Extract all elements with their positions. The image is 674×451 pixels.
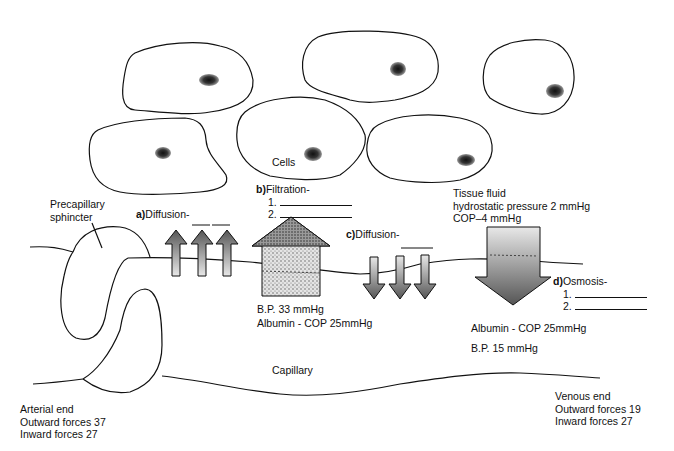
capillary-exchange-diagram — [0, 0, 674, 451]
venous-end-title: Venous end — [555, 390, 641, 403]
venous-pressures-label: Albumin - COP 25mmHg B.P. 15 mmHg — [471, 318, 586, 358]
diffusion-c-marker: c) — [346, 228, 355, 240]
filtration-answer-2[interactable] — [280, 209, 352, 218]
venous-outward-forces: Outward forces 19 — [555, 403, 641, 416]
arterial-cop: Albumin - COP 25mmHg — [257, 316, 372, 330]
diffusion-c-label: c)Diffusion- — [346, 228, 400, 241]
precapillary-sphincter-label: Precapillary sphincter — [50, 198, 105, 223]
arterial-pressures-label: B.P. 33 mmHg Albumin - COP 25mmHg — [257, 302, 372, 330]
osmosis-d-text: Osmosis- — [563, 275, 607, 287]
filtration-b-marker: b) — [256, 183, 266, 195]
filtration-item-1: 1. — [268, 196, 277, 208]
osmosis-arrow — [475, 227, 551, 305]
cell — [303, 31, 439, 102]
filtration-b-text: Filtration- — [266, 183, 310, 195]
osmosis-d-label: d)Osmosis- 1. 2. — [553, 275, 647, 313]
diffusion-a-text: Diffusion- — [145, 208, 189, 220]
filtration-answer-1[interactable] — [280, 197, 352, 206]
arterial-bp: B.P. 33 mmHg — [257, 302, 372, 316]
osmosis-answer-1[interactable] — [575, 289, 647, 298]
arterial-outward-forces: Outward forces 37 — [20, 416, 106, 429]
osmosis-d-marker: d) — [553, 275, 563, 287]
diffusion-a-arrows — [165, 230, 238, 276]
osmosis-item-2: 2. — [563, 300, 572, 312]
osmosis-item-1: 1. — [563, 288, 572, 300]
precapillary-label-line1: Precapillary — [50, 198, 105, 211]
nucleus-group — [155, 62, 564, 166]
precapillary-sphincter — [61, 223, 162, 393]
venous-end-label: Venous end Outward forces 19 Inward forc… — [555, 390, 641, 428]
precapillary-label-line2: sphincter — [50, 211, 105, 224]
filtration-item-2: 2. — [268, 208, 277, 220]
venous-cop: Albumin - COP 25mmHg — [471, 318, 586, 338]
tissue-fluid-label: Tissue fluid hydrostatic pressure 2 mmHg… — [453, 187, 590, 225]
osmosis-answer-2[interactable] — [575, 301, 647, 310]
venous-inward-forces: Inward forces 27 — [555, 415, 641, 428]
diffusion-a-label: a)Diffusion- — [136, 208, 190, 221]
arterial-inward-forces: Inward forces 27 — [20, 428, 106, 441]
cell-group — [89, 31, 574, 194]
diffusion-c-text: Diffusion- — [355, 228, 399, 240]
cell — [483, 40, 574, 114]
diffusion-c-arrows — [363, 255, 436, 299]
venous-bp: B.P. 15 mmHg — [471, 338, 586, 358]
cells-label: Cells — [272, 156, 295, 169]
capillary-label: Capillary — [272, 364, 313, 377]
tissue-fluid-line2: hydrostatic pressure 2 mmHg — [453, 200, 590, 213]
arterial-end-title: Arterial end — [20, 403, 106, 416]
tissue-fluid-line3: COP–4 mmHg — [453, 212, 590, 225]
filtration-arrow — [252, 217, 330, 296]
diffusion-a-marker: a) — [136, 208, 145, 220]
arterial-end-label: Arterial end Outward forces 37 Inward fo… — [20, 403, 106, 441]
cell — [237, 97, 366, 179]
cell — [367, 115, 492, 183]
tissue-fluid-line1: Tissue fluid — [453, 187, 590, 200]
filtration-b-label: b)Filtration- 1. 2. — [256, 183, 352, 221]
cell — [123, 43, 253, 114]
